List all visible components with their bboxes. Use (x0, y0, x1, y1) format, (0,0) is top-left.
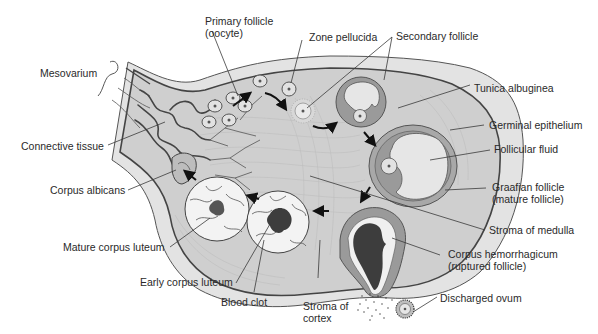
label-blood-clot: Blood clot (221, 296, 267, 308)
label-corpus-albicans: Corpus albicans (50, 184, 125, 196)
primary-follicle (208, 100, 222, 112)
label-discharged-ovum: Discharged ovum (440, 292, 522, 304)
primary-follicle (282, 82, 296, 96)
follicular-fluid-cavity (390, 133, 448, 199)
label-secondary-follicle: Secondary follicle (396, 30, 478, 42)
label-germinal-epithelium: Germinal epithelium (489, 119, 583, 131)
early-corpus-luteum (247, 191, 309, 253)
label-follicular-fluid: Follicular fluid (494, 143, 558, 155)
label-early-corpus-luteum: Early corpus luteum (140, 276, 233, 288)
discharged-ovum (396, 300, 414, 318)
label-stroma-of-cortex: Stroma of (303, 300, 349, 312)
mature-corpus-luteum (185, 177, 249, 241)
graafian-follicle (369, 125, 457, 207)
primary-follicle (253, 75, 267, 87)
primary-follicle (222, 114, 236, 126)
label-corpus-hemorrhagicum-sub: (ruptured follicle) (448, 260, 526, 272)
label-stroma-of-cortex-sub: cortex (303, 312, 332, 324)
label-primary-follicle-sub: (oocyte) (205, 27, 243, 39)
zone-pellucida-follicle (291, 99, 315, 123)
label-tunica-albuginea: Tunica albuginea (474, 82, 554, 94)
label-primary-follicle: Primary follicle (205, 15, 273, 27)
label-mature-corpus-luteum: Mature corpus luteum (63, 241, 165, 253)
label-mesovarium: Mesovarium (40, 67, 97, 79)
primary-follicle (202, 116, 216, 128)
label-connective-tissue: Connective tissue (21, 140, 104, 152)
label-zone-pellucida: Zone pellucida (309, 31, 377, 43)
label-corpus-hemorrhagicum: Corpus hemorrhagicum (448, 248, 558, 260)
secondary-follicle (336, 77, 386, 127)
label-graafian-follicle-sub: (mature follicle) (492, 193, 564, 205)
label-graafian-follicle: Graafian follicle (492, 181, 565, 193)
label-stroma-of-medulla: Stroma of medulla (489, 224, 574, 236)
ovary-diagram: Primary follicle (oocyte) Zone pellucida… (0, 0, 598, 334)
